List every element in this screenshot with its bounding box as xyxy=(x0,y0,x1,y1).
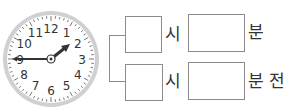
row2-minute-unit: 분 전 xyxy=(248,73,285,90)
svg-text:12: 12 xyxy=(43,22,58,36)
row1-hour-box[interactable] xyxy=(125,16,162,53)
clock-face-icon: 121234567891011 xyxy=(0,6,104,110)
row2-minute-box[interactable] xyxy=(188,62,245,100)
svg-text:2: 2 xyxy=(74,37,82,51)
row1-hour-unit: 시 xyxy=(165,26,181,43)
analog-clock: 121234567891011 xyxy=(0,6,104,110)
row2-hour-unit: 시 xyxy=(165,73,181,90)
svg-text:4: 4 xyxy=(74,68,82,82)
svg-text:11: 11 xyxy=(28,26,43,40)
svg-text:6: 6 xyxy=(47,84,55,98)
svg-text:8: 8 xyxy=(20,68,28,82)
row1-minute-box[interactable] xyxy=(188,14,245,52)
svg-text:7: 7 xyxy=(32,79,40,93)
row1-minute-unit: 분 xyxy=(248,24,264,41)
answer-bracket xyxy=(109,35,126,82)
svg-text:1: 1 xyxy=(63,26,71,40)
svg-text:5: 5 xyxy=(63,79,71,93)
row2-hour-box[interactable] xyxy=(125,64,163,101)
svg-text:3: 3 xyxy=(78,53,86,67)
